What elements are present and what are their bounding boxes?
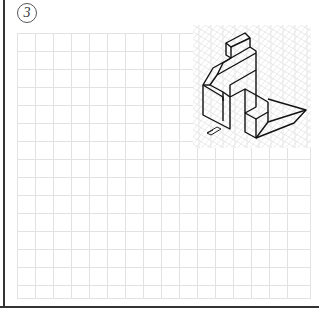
page-border-bottom <box>0 306 319 308</box>
exercise-number-badge: 3 <box>17 3 37 23</box>
isometric-drawing <box>193 25 311 148</box>
exercise-number: 3 <box>24 5 31 21</box>
page-border-left <box>3 0 5 307</box>
isometric-view-panel <box>193 25 311 148</box>
isometric-grid <box>193 25 311 148</box>
